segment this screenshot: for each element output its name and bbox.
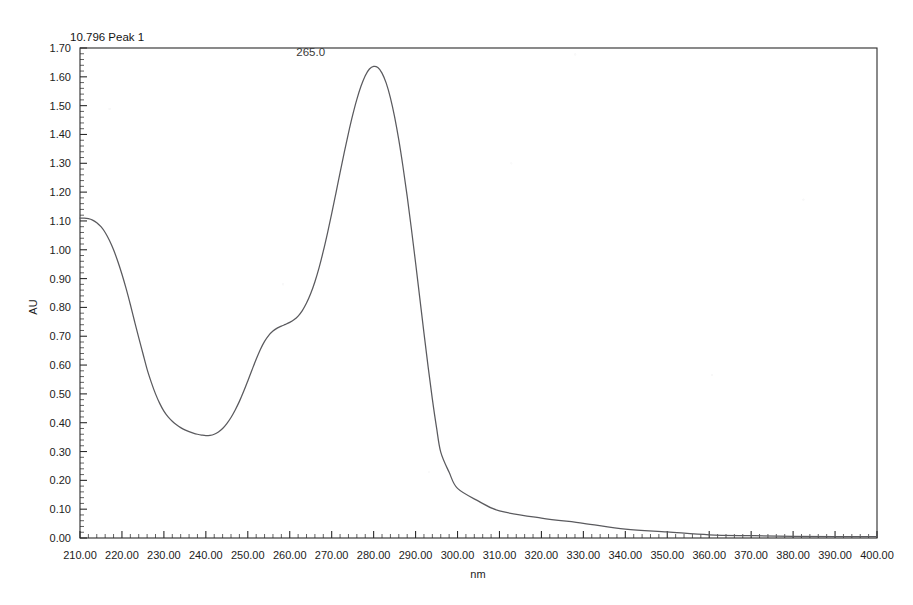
x-tick-label: 360.00 [692,549,726,561]
x-tick-label: 340.00 [608,549,642,561]
x-tick-label: 310.00 [483,549,517,561]
y-tick-label: 1.50 [50,100,71,112]
x-tick-label: 370.00 [734,549,768,561]
x-axis-tick-labels: 210.00220.00230.00240.00250.00260.00270.… [63,549,894,561]
x-tick-label: 250.00 [231,549,265,561]
x-tick-label: 230.00 [147,549,181,561]
y-axis-title: AU [27,299,39,314]
y-axis-major-ticks [80,48,87,538]
y-tick-label: 1.20 [50,186,71,198]
y-axis-tick-labels: 1.701.601.501.401.301.201.101.000.900.80… [50,42,71,544]
x-axis-major-ticks [80,531,877,538]
x-tick-label: 220.00 [105,549,139,561]
x-tick-label: 290.00 [399,549,433,561]
x-tick-label: 280.00 [357,549,391,561]
y-tick-label: 0.80 [50,301,71,313]
y-tick-label: 1.40 [50,128,71,140]
y-tick-label: 0.10 [50,503,71,515]
y-tick-label: 1.00 [50,244,71,256]
y-tick-label: 0.20 [50,474,71,486]
x-tick-label: 300.00 [441,549,475,561]
x-axis-title: nm [470,568,485,580]
x-tick-label: 400.00 [860,549,894,561]
y-tick-label: 0.40 [50,417,71,429]
y-tick-label: 1.10 [50,215,71,227]
peak-max-label: 265.0 [296,46,325,58]
y-tick-label: 0.60 [50,359,71,371]
y-tick-label: 1.30 [50,157,71,169]
x-tick-label: 260.00 [273,549,307,561]
plot-title: 10.796 Peak 1 [70,31,144,43]
x-tick-label: 330.00 [567,549,601,561]
x-tick-label: 380.00 [776,549,810,561]
y-tick-label: 0.90 [50,273,71,285]
x-tick-label: 320.00 [525,549,559,561]
y-tick-label: 1.60 [50,71,71,83]
x-tick-label: 350.00 [650,549,684,561]
x-tick-label: 210.00 [63,549,97,561]
y-tick-label: 0.70 [50,330,71,342]
y-tick-label: 0.00 [50,532,71,544]
x-tick-label: 390.00 [818,549,852,561]
plot-frame [80,48,877,538]
chart-canvas: 10.796 Peak 1 1.701.601.501.401.301.201.… [0,0,913,605]
x-tick-label: 240.00 [189,549,223,561]
uv-spectrum-chart: 10.796 Peak 1 1.701.601.501.401.301.201.… [0,0,913,605]
x-tick-label: 270.00 [315,549,349,561]
y-tick-label: 0.30 [50,446,71,458]
y-axis-minor-ticks [80,54,84,532]
y-tick-label: 1.70 [50,42,71,54]
spectrum-trace [80,66,877,536]
y-tick-label: 0.50 [50,388,71,400]
